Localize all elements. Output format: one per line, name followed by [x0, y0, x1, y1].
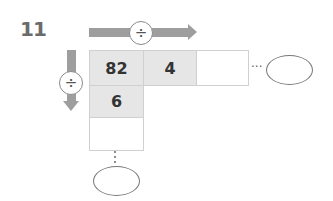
answer-oval-vertical[interactable]	[93, 166, 140, 196]
cell-row1-col1: 82	[89, 50, 144, 86]
cell-row1-col3-answer[interactable]	[196, 50, 249, 86]
cell-value: 6	[111, 92, 122, 111]
cell-row2-col1: 6	[89, 85, 144, 118]
horizontal-divide-operator: ÷	[129, 21, 153, 45]
vertical-ellipsis	[114, 151, 118, 163]
cell-row3-col1-answer[interactable]	[89, 117, 144, 151]
horizontal-ellipsis: ···	[251, 60, 262, 74]
answer-oval-horizontal[interactable]	[266, 55, 313, 85]
cell-row1-col2: 4	[143, 50, 197, 86]
cell-value: 4	[164, 59, 175, 78]
question-number: 11	[20, 17, 46, 41]
right-arrow-icon	[188, 24, 197, 40]
divide-icon: ÷	[65, 76, 78, 91]
divide-icon: ÷	[135, 26, 148, 41]
cell-value: 82	[105, 59, 127, 78]
vertical-divide-operator: ÷	[59, 71, 83, 95]
down-arrow-icon	[63, 101, 79, 111]
